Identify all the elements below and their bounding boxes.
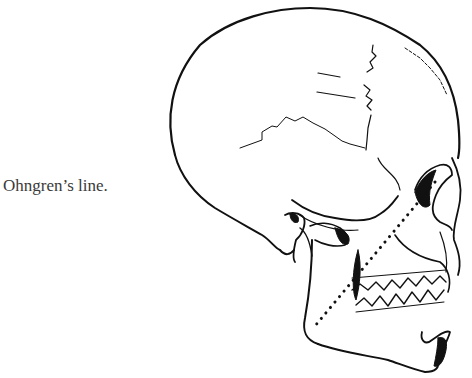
frontal-ridge bbox=[405, 48, 447, 95]
temporal-line-1 bbox=[318, 73, 340, 77]
tmj-shadow bbox=[290, 213, 298, 222]
orbit-shadow bbox=[415, 170, 436, 207]
mandible-body bbox=[318, 344, 438, 372]
upper-teeth bbox=[352, 276, 446, 290]
skull-illustration bbox=[0, 0, 472, 378]
squamosal-suture bbox=[240, 117, 365, 148]
cranium-outline bbox=[170, 8, 459, 158]
zygomatic-arch bbox=[292, 196, 398, 221]
coronal-suture bbox=[364, 45, 376, 150]
mandible-ramus bbox=[304, 240, 318, 344]
occipital-outline bbox=[175, 155, 294, 254]
temporal-fossa bbox=[378, 158, 400, 190]
tooth-row-top bbox=[352, 270, 446, 278]
chin-shadow bbox=[434, 338, 447, 367]
temporal-line-2 bbox=[317, 92, 355, 98]
nasal-bone bbox=[452, 158, 461, 275]
